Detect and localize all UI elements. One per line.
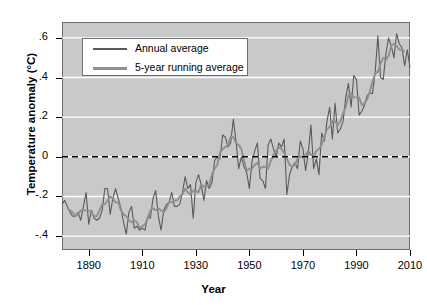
- legend: Annual average 5-year running average: [82, 38, 248, 76]
- x-tick-label: 1990: [326, 259, 386, 271]
- x-tick-mark: [356, 250, 357, 256]
- y-tick-label: -.2: [8, 188, 48, 200]
- x-tick-label: 1890: [59, 259, 119, 271]
- plot-area: Annual average 5-year running average: [62, 22, 410, 250]
- x-tick-mark: [410, 250, 411, 256]
- x-tick-mark: [89, 250, 90, 256]
- x-tick-label: 1930: [166, 259, 226, 271]
- y-tick-label: .4: [8, 70, 48, 82]
- y-tick-label: -.4: [8, 228, 48, 240]
- x-axis-label: Year: [0, 283, 427, 295]
- x-tick-label: 2010: [380, 259, 427, 271]
- legend-label-running: 5-year running average: [135, 61, 244, 73]
- x-tick-mark: [196, 250, 197, 256]
- x-tick-mark: [303, 250, 304, 256]
- x-tick-mark: [142, 250, 143, 256]
- x-tick-label: 1970: [273, 259, 333, 271]
- chart-figure: Temperature anomaly (°C) Year .6.4.20-.2…: [0, 0, 427, 305]
- y-tick-label: .6: [8, 30, 48, 42]
- x-tick-mark: [249, 250, 250, 256]
- legend-label-annual: Annual average: [135, 42, 209, 54]
- y-tick-label: 0: [8, 149, 48, 161]
- legend-swatch-running: [93, 67, 127, 70]
- legend-entry-annual: Annual average: [83, 39, 249, 58]
- legend-entry-running: 5-year running average: [83, 58, 249, 77]
- x-tick-label: 1910: [112, 259, 172, 271]
- x-tick-label: 1950: [219, 259, 279, 271]
- y-tick-label: .2: [8, 109, 48, 121]
- legend-swatch-annual: [93, 48, 127, 50]
